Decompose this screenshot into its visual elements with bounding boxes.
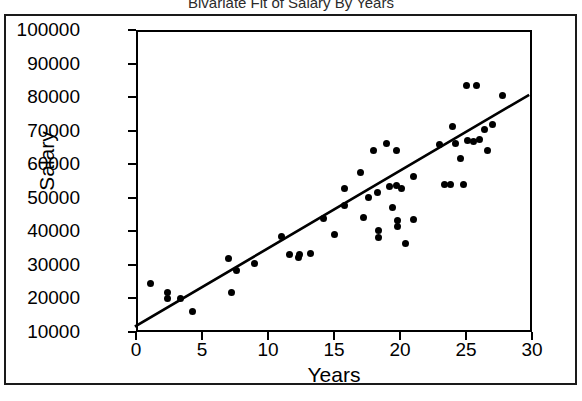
scatter-point — [476, 136, 483, 143]
y-tick-mark — [128, 163, 136, 165]
scatter-point — [386, 183, 393, 190]
scatter-point — [357, 169, 364, 176]
scatter-point — [436, 141, 443, 148]
chart-figure: Bivariate Fit of Salary By Years 1000020… — [0, 0, 582, 401]
scatter-point — [341, 185, 348, 192]
y-tick-mark — [128, 230, 136, 232]
scatter-point — [398, 185, 405, 192]
y-tick-label: 10000 — [27, 322, 80, 341]
scatter-point — [341, 202, 348, 209]
scatter-point — [452, 140, 459, 147]
scatter-point — [389, 204, 396, 211]
scatter-point — [307, 250, 314, 257]
scatter-point — [225, 255, 232, 262]
scatter-point — [228, 289, 235, 296]
scatter-point — [374, 189, 381, 196]
y-tick-mark — [128, 63, 136, 65]
scatter-point — [447, 181, 454, 188]
x-tick-label: 5 — [172, 340, 232, 359]
scatter-point — [410, 216, 417, 223]
scatter-point — [286, 251, 293, 258]
scatter-point — [375, 234, 382, 241]
scatter-point — [320, 215, 327, 222]
regression-line — [136, 30, 532, 332]
scatter-point — [473, 82, 480, 89]
y-tick-mark — [128, 130, 136, 132]
scatter-point — [460, 181, 467, 188]
x-tick-label: 10 — [238, 340, 298, 359]
y-tick-mark — [128, 297, 136, 299]
scatter-point — [278, 233, 285, 240]
x-tick-label: 15 — [304, 340, 364, 359]
x-axis-title: Years — [136, 364, 532, 386]
y-tick-label: 30000 — [27, 255, 80, 274]
y-tick-mark — [128, 29, 136, 31]
scatter-point — [481, 126, 488, 133]
scatter-point — [402, 240, 409, 247]
y-tick-label: 90000 — [27, 54, 80, 73]
scatter-point — [365, 194, 372, 201]
scatter-point — [394, 223, 401, 230]
y-tick-mark — [128, 197, 136, 199]
x-tick-label: 0 — [106, 340, 166, 359]
x-tick-label: 20 — [370, 340, 430, 359]
x-tick-label: 30 — [502, 340, 562, 359]
scatter-point — [457, 155, 464, 162]
scatter-point — [331, 231, 338, 238]
scatter-point — [489, 121, 496, 128]
y-tick-label: 20000 — [27, 288, 80, 307]
y-tick-mark — [128, 264, 136, 266]
scatter-point — [147, 280, 154, 287]
scatter-point — [393, 147, 400, 154]
x-tick-label: 25 — [436, 340, 496, 359]
scatter-point — [251, 260, 258, 267]
scatter-point — [233, 267, 240, 274]
y-axis-title: Salary — [36, 81, 58, 241]
y-tick-mark — [128, 96, 136, 98]
y-tick-label: 100000 — [17, 20, 80, 39]
scatter-point — [360, 214, 367, 221]
plot-canvas — [136, 30, 532, 332]
scatter-point — [463, 82, 470, 89]
scatter-point — [410, 173, 417, 180]
scatter-point — [484, 147, 491, 154]
